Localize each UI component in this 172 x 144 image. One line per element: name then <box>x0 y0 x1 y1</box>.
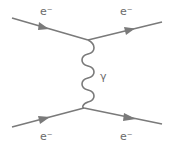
outgoing-electron-bottom <box>84 108 162 124</box>
incoming-electron-bottom <box>12 108 84 127</box>
label-incoming-top: e⁻ <box>40 5 53 18</box>
feynman-diagram: e⁻ e⁻ γ e⁻ e⁻ <box>0 0 172 144</box>
label-photon: γ <box>100 70 107 83</box>
outgoing-electron-top <box>88 22 162 40</box>
label-outgoing-top: e⁻ <box>120 5 133 18</box>
diagram-canvas: e⁻ e⁻ γ e⁻ e⁻ <box>0 0 172 144</box>
incoming-electron-top <box>12 18 88 40</box>
arrow-icon <box>38 22 49 30</box>
arrow-icon <box>38 116 50 124</box>
arrow-icon <box>123 113 136 121</box>
label-outgoing-bottom: e⁻ <box>120 130 133 143</box>
photon-propagator <box>82 40 94 108</box>
label-incoming-bottom: e⁻ <box>40 130 53 143</box>
